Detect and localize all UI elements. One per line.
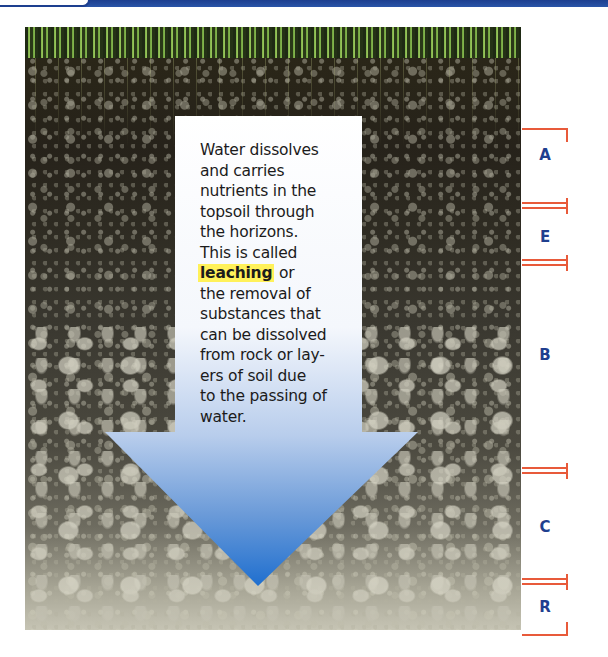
text-line: and carries [200, 161, 370, 182]
horizon-label-b: B [533, 346, 557, 364]
horizon-label-a: A [533, 146, 557, 164]
text-line: water. [200, 407, 370, 428]
text-line: can be dissolved [200, 325, 370, 346]
text-line: topsoil through [200, 202, 370, 223]
leaching-description: Water dissolves and carries nutrients in… [200, 140, 370, 427]
leaching-term-highlight: leaching [198, 264, 274, 282]
horizon-marker-e-b [522, 259, 568, 271]
text-line: Water dissolves [200, 140, 370, 161]
text-line: nutrients in the [200, 181, 370, 202]
text-line: to the passing of [200, 386, 370, 407]
horizon-label-e: E [533, 228, 557, 246]
text-line: the removal of [200, 284, 370, 305]
text-line-highlight: leaching or [200, 263, 370, 284]
horizon-label-c: C [533, 518, 557, 536]
horizon-marker-bottom [522, 634, 568, 646]
horizon-marker-a-e [522, 202, 568, 214]
horizon-marker-b-c [522, 467, 568, 479]
highlight-suffix: or [274, 264, 294, 282]
horizon-marker-c-r [522, 578, 568, 590]
text-line: the horizons. [200, 222, 370, 243]
text-line: ers of soil due [200, 366, 370, 387]
text-line: substances that [200, 304, 370, 325]
horizon-marker-top [522, 128, 568, 140]
text-line: This is called [200, 243, 370, 264]
text-line: from rock or lay- [200, 345, 370, 366]
horizon-label-r: R [533, 598, 557, 616]
